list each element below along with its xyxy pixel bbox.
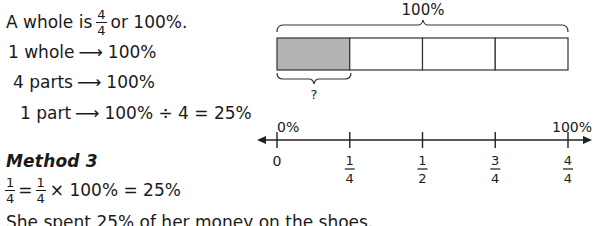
- bar-part-shaded: [277, 38, 350, 70]
- arrow-right-icon: [583, 136, 592, 144]
- bar-part: [423, 38, 496, 70]
- number-line-start-label: 0%: [277, 119, 299, 135]
- tick-label-numerator: 1: [418, 153, 426, 168]
- tick-label-numerator: 3: [491, 153, 499, 168]
- bar-unknown-label: ?: [311, 87, 318, 102]
- bottom-brace: [277, 73, 351, 84]
- bar-part: [495, 38, 568, 70]
- tick-label-denominator: 4: [491, 171, 499, 186]
- top-brace: [277, 20, 568, 32]
- bar-part: [350, 38, 423, 70]
- arrow-left-icon: [257, 136, 266, 144]
- tick-label-numerator: 4: [564, 153, 572, 168]
- bar-top-label: 100%: [402, 1, 445, 19]
- tick-label-denominator: 2: [418, 171, 426, 186]
- number-line-end-label: 100%: [552, 119, 592, 135]
- tick-label-denominator: 4: [346, 171, 354, 186]
- tick-label-numerator: 1: [346, 153, 354, 168]
- diagram: 100% ? 0% 100% 014123444: [0, 0, 599, 226]
- bar-model: [277, 38, 568, 70]
- tick-label-denominator: 4: [564, 171, 572, 186]
- tick-label: 0: [273, 153, 282, 169]
